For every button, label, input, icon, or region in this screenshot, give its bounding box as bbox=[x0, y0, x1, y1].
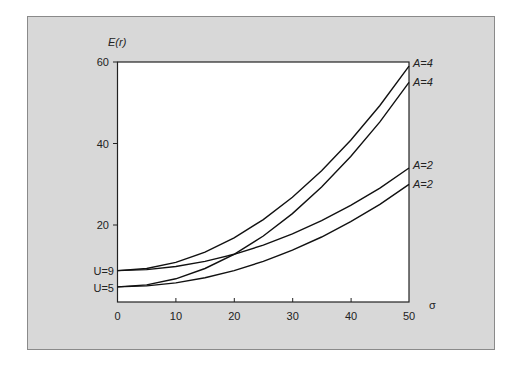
indifference-curves-chart: 60 40 20 U=9 U=5 0 10 20 30 40 50 E(r) σ… bbox=[0, 0, 530, 369]
x-tick-label-50: 50 bbox=[403, 310, 415, 322]
u9-label: U=9 bbox=[94, 265, 115, 277]
label-a2-top: A=2 bbox=[412, 159, 433, 171]
label-a4-top: A=4 bbox=[412, 57, 433, 69]
x-tick-label-0: 0 bbox=[114, 310, 120, 322]
label-a4-low: A=4 bbox=[412, 76, 433, 88]
u5-label: U=5 bbox=[94, 282, 115, 294]
y-tick-label-40: 40 bbox=[97, 138, 109, 150]
y-axis-title: E(r) bbox=[108, 36, 127, 48]
y-tick-label-60: 60 bbox=[97, 56, 109, 68]
x-tick-label-40: 40 bbox=[345, 310, 357, 322]
y-tick-label-20: 20 bbox=[97, 219, 109, 231]
x-tick-label-10: 10 bbox=[170, 310, 182, 322]
x-tick-label-20: 20 bbox=[228, 310, 240, 322]
x-tick-label-30: 30 bbox=[287, 310, 299, 322]
label-a4-top-text: A=4 bbox=[412, 57, 433, 69]
label-a2-low: A=2 bbox=[412, 178, 433, 190]
x-axis-title: σ bbox=[429, 299, 436, 311]
label-a2-low-text: A=2 bbox=[412, 178, 433, 190]
label-a4-low-text: A=4 bbox=[412, 76, 433, 88]
label-a2-top-text: A=2 bbox=[412, 159, 433, 171]
